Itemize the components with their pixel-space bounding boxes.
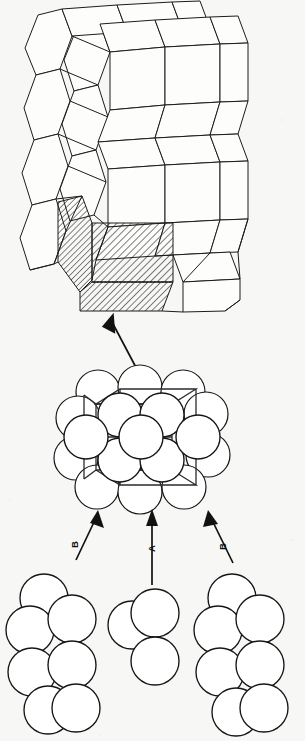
layer-label-a-center: A xyxy=(146,545,157,552)
layer-a-atom-bottom xyxy=(131,637,179,685)
prism-top-face-4 xyxy=(100,20,165,52)
layer-b-left-atom-5 xyxy=(48,595,96,643)
layer-b-right-atom-7 xyxy=(240,684,288,732)
layer-b-left-atom-6 xyxy=(48,641,96,689)
highlighted-cell-front-face xyxy=(92,223,173,282)
prism-top-face-8 xyxy=(155,135,220,165)
highlighted-cell-bottom-face xyxy=(80,282,173,311)
hcp-structure-figure: B A B xyxy=(0,0,305,741)
prism-front-face-6 xyxy=(220,161,248,220)
layer-b-left-atom-2 xyxy=(6,606,54,654)
figure-canvas: B A B xyxy=(0,0,305,741)
prism-front-face-2 xyxy=(165,44,220,105)
layer-a-atom-top xyxy=(131,589,179,637)
layer-label-b-left: B xyxy=(69,541,80,548)
prism-top-face-7 xyxy=(98,138,165,169)
prism-front-face-4 xyxy=(108,165,165,227)
layer-b-left-atom-7 xyxy=(52,684,100,732)
prism-front-faces-row2 xyxy=(108,161,248,227)
layer-label-b-right: B xyxy=(217,543,228,550)
layer-b-right-atom-5 xyxy=(236,595,284,643)
unit-cell-with-atoms xyxy=(54,365,230,514)
atom-front-left xyxy=(64,415,108,459)
layer-b-right-atom-6 xyxy=(236,641,284,689)
prism-front-faces-row1 xyxy=(110,43,248,110)
layer-b-right-atom-2 xyxy=(194,606,242,654)
prism-front-face-1 xyxy=(110,47,165,110)
prism-front-face-5 xyxy=(165,162,220,223)
atom-front-right xyxy=(176,415,220,459)
prism-top-face-5 xyxy=(155,17,220,47)
prism-second-hexagon-faces xyxy=(60,24,110,221)
atom-front-center xyxy=(119,415,163,459)
prism-front-face-3 xyxy=(220,43,248,102)
